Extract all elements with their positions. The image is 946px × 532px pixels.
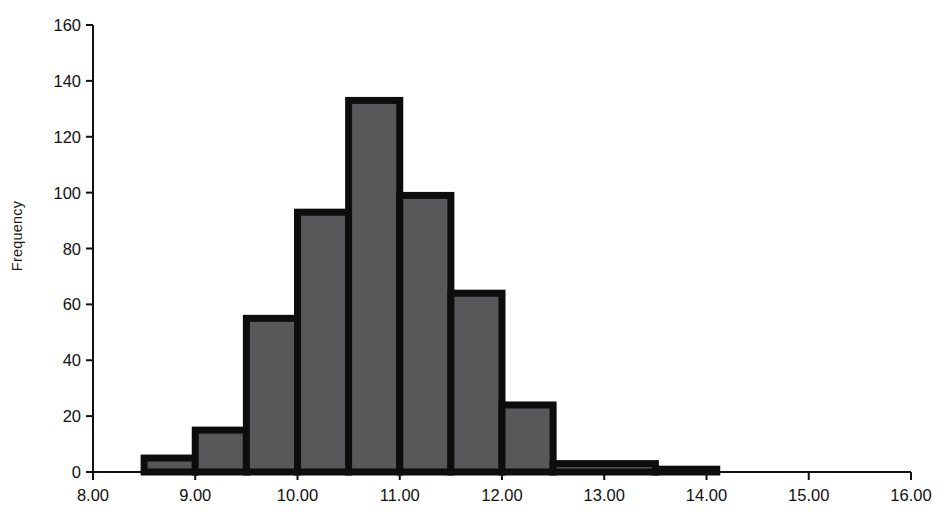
histogram-bar xyxy=(451,293,502,472)
bars-group xyxy=(144,100,717,472)
histogram-bar xyxy=(502,405,553,472)
histogram-bar xyxy=(144,458,195,472)
histogram-bar xyxy=(553,464,655,472)
histogram-bar xyxy=(246,318,297,472)
histogram-chart: Frequency 020406080100120140160 8.009.00… xyxy=(0,0,946,532)
plot-area xyxy=(0,0,946,532)
histogram-bar xyxy=(349,100,400,472)
histogram-bar xyxy=(400,195,451,472)
histogram-bar xyxy=(298,212,349,472)
histogram-bar xyxy=(195,430,246,472)
